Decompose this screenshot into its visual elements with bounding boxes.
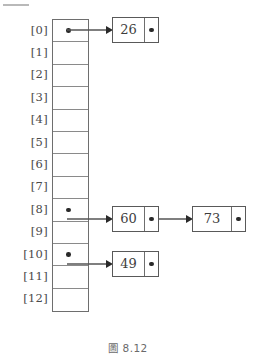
array-slot-3[interactable] [53,87,88,109]
array-slot-6[interactable] [53,154,88,176]
array-slot-1[interactable] [53,42,88,64]
array-index-label-1: [1] [4,45,48,59]
array-slot-11[interactable] [53,266,88,288]
array-index-label-2: [2] [4,67,48,81]
list-node-60[interactable]: 60 [112,206,159,232]
array-index-label-9: [9] [4,224,48,238]
list-node-value-73: 73 [193,207,232,231]
pointer-dot-icon-node-73 [236,217,241,222]
array-index-label-3: [3] [4,90,48,104]
pointer-dot-icon-node-60 [149,217,154,222]
list-node-value-60: 60 [113,207,145,231]
array-index-label-8: [8] [4,202,48,216]
figure-caption: 圖 8.12 [0,340,256,355]
pointer-dot-icon-slot-10 [66,252,71,257]
list-node-73[interactable]: 73 [192,206,246,232]
scan-artifact-dash [3,4,29,6]
arrow-slot-0-to-node-26 [67,25,113,35]
array-index-label-5: [5] [4,135,48,149]
figure-hash-table-chaining: [0] [1] [2] [3] [4] [5] [6] [7] [8] [9] … [0,0,256,359]
array-index-label-11: [11] [4,269,48,283]
pointer-dot-icon-node-49 [149,262,154,267]
list-node-49[interactable]: 49 [112,251,159,277]
list-node-pointer-73 [232,207,245,231]
array-index-label-0: [0] [4,23,48,37]
array-index-label-7: [7] [4,179,48,193]
arrow-slot-8-to-node-60 [67,214,113,224]
array-slot-4[interactable] [53,110,88,132]
list-node-value-49: 49 [113,252,145,276]
array-slot-2[interactable] [53,65,88,87]
array-slot-5[interactable] [53,132,88,154]
list-node-pointer-26 [145,18,158,42]
array-index-label-4: [4] [4,112,48,126]
array-slot-12[interactable] [53,289,88,311]
array-index-label-10: [10] [4,247,48,261]
pointer-dot-icon-node-26 [149,28,154,33]
array-index-label-column: [0] [1] [2] [3] [4] [5] [6] [7] [8] [9] … [0,19,48,311]
array-slot-7[interactable] [53,177,88,199]
arrow-slot-10-to-node-49 [67,259,113,269]
list-node-pointer-49 [145,252,158,276]
list-node-value-26: 26 [113,18,145,42]
list-node-pointer-60 [145,207,158,231]
array-index-label-12: [12] [4,291,48,305]
array-slot-9[interactable] [53,222,88,244]
list-node-26[interactable]: 26 [112,17,159,43]
pointer-dot-icon-slot-8 [66,208,71,213]
array-index-label-6: [6] [4,157,48,171]
